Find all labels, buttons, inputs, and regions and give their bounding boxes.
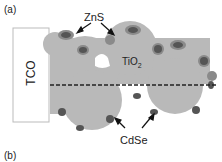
zns-arrows	[77, 23, 114, 35]
cdse-label: CdSe	[120, 134, 148, 146]
tio2-label: TiO2	[122, 56, 142, 69]
panel-b-label: (b)	[4, 150, 16, 161]
cdse-arrows	[115, 114, 154, 128]
zns-label: ZnS	[84, 11, 104, 23]
tio2-subscript: 2	[138, 62, 142, 69]
tio2-text: TiO	[122, 56, 138, 67]
tco-label: TCO	[24, 58, 38, 88]
